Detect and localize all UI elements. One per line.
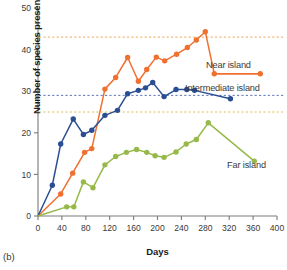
data-point <box>81 179 86 184</box>
y-axis-label: Number of species present <box>31 0 42 126</box>
data-point <box>144 150 149 155</box>
data-point <box>82 150 87 155</box>
tick-marks-group <box>34 8 277 220</box>
data-point <box>136 79 141 84</box>
x-tick-label: 400 <box>270 223 285 233</box>
data-point <box>136 88 141 93</box>
data-series-group <box>38 29 263 216</box>
data-point <box>89 128 94 133</box>
reference-lines-group <box>39 37 285 112</box>
data-point <box>174 51 179 56</box>
data-point <box>81 132 86 137</box>
data-point <box>71 116 76 121</box>
data-point <box>134 147 139 152</box>
data-point <box>58 191 63 196</box>
data-point <box>50 183 55 188</box>
x-tick-label: 240 <box>174 223 189 233</box>
data-point <box>185 45 190 50</box>
x-axis-label: Days <box>38 246 277 257</box>
species-accumulation-chart: 0102030405004080120160200240280320360400 <box>0 0 287 270</box>
data-point <box>71 204 76 209</box>
data-point <box>183 141 188 146</box>
data-point <box>173 87 178 92</box>
data-point <box>70 170 75 175</box>
data-point <box>203 29 208 34</box>
y-tick-label: 10 <box>21 170 31 180</box>
data-point <box>162 58 167 63</box>
data-point <box>194 37 199 42</box>
x-tick-label: 280 <box>198 223 213 233</box>
x-tick-label: 0 <box>36 223 41 233</box>
data-point <box>125 91 130 96</box>
series-label-intermediate-island: Intermediate island <box>185 83 260 93</box>
data-point <box>194 137 199 142</box>
x-tick-label: 200 <box>150 223 165 233</box>
x-tick-label: 160 <box>126 223 141 233</box>
axes-group <box>38 8 277 216</box>
series-line <box>38 123 254 216</box>
data-point <box>58 141 63 146</box>
data-point <box>115 108 120 113</box>
series-far-island <box>38 120 257 216</box>
y-tick-label: 0 <box>26 211 31 221</box>
data-point <box>228 96 233 101</box>
data-point <box>113 154 118 159</box>
series-label-near-island: Near island <box>206 60 251 70</box>
data-point <box>144 67 149 72</box>
series-label-far-island: Far island <box>227 160 266 170</box>
data-point <box>125 55 130 60</box>
data-point <box>90 185 95 190</box>
figure-panel-b: 0102030405004080120160200240280320360400… <box>0 0 287 270</box>
tick-labels-group: 0102030405004080120160200240280320360400 <box>21 3 284 232</box>
x-tick-label: 360 <box>246 223 261 233</box>
data-point <box>143 85 148 90</box>
data-point <box>206 120 211 125</box>
y-tick-label: 20 <box>21 128 31 138</box>
data-point <box>124 150 129 155</box>
data-point <box>161 94 166 99</box>
data-point <box>152 153 157 158</box>
panel-label: (b) <box>3 251 15 262</box>
data-point <box>150 80 155 85</box>
x-tick-label: 120 <box>103 223 118 233</box>
data-point <box>102 86 107 91</box>
x-tick-label: 80 <box>81 223 91 233</box>
data-point <box>64 204 69 209</box>
data-point <box>173 149 178 154</box>
data-point <box>102 162 107 167</box>
data-point <box>154 54 159 59</box>
x-tick-label: 320 <box>222 223 237 233</box>
x-tick-label: 40 <box>57 223 67 233</box>
data-point <box>89 146 94 151</box>
data-point <box>113 75 118 80</box>
data-point <box>102 113 107 118</box>
data-point <box>161 155 166 160</box>
